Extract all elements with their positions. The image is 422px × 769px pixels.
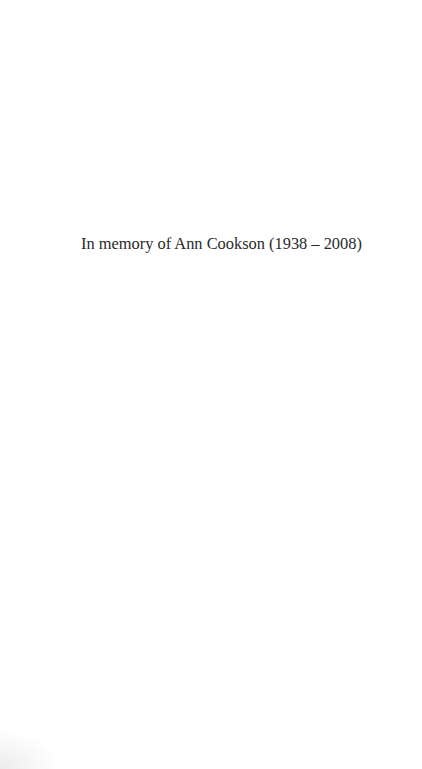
book-page: In memory of Ann Cookson (1938 – 2008) — [0, 0, 422, 769]
page-shadow — [0, 729, 60, 769]
dedication-text: In memory of Ann Cookson (1938 – 2008) — [81, 234, 362, 254]
